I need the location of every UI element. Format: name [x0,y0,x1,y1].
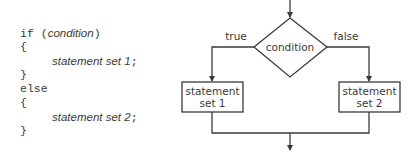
flowchart: condition true false statement set 1 sta… [0,0,419,157]
entry-arrowhead-icon [287,12,293,18]
box2-line1: statement [342,85,396,97]
box1-line2: set 1 [199,97,225,109]
merge-line [212,112,369,133]
false-label: false [334,30,359,42]
decision-label: condition [266,41,315,53]
box2-line2: set 2 [356,97,382,109]
exit-arrowhead-icon [287,145,293,151]
false-arrowhead-icon [366,76,372,82]
true-arrowhead-icon [209,76,215,82]
false-branch-line [327,47,369,81]
true-branch-line [212,47,254,81]
true-label: true [225,30,247,42]
box1-line1: statement [185,85,239,97]
